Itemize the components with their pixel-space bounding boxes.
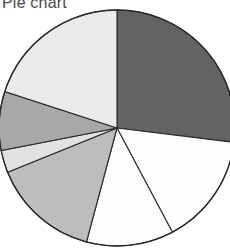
pie-slice bbox=[117, 10, 230, 142]
pie-chart-canvas bbox=[0, 0, 230, 251]
pie-slices-group bbox=[0, 10, 230, 246]
pie-chart-figure: Pie chart bbox=[0, 0, 230, 251]
